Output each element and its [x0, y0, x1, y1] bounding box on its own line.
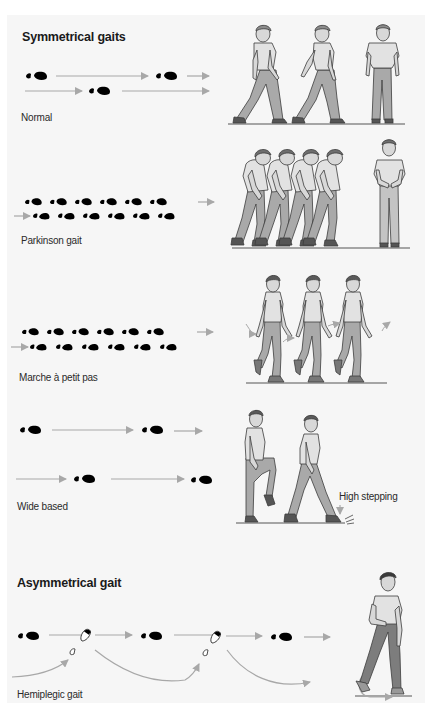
hemiplegic-figure-illustration [0, 0, 439, 716]
